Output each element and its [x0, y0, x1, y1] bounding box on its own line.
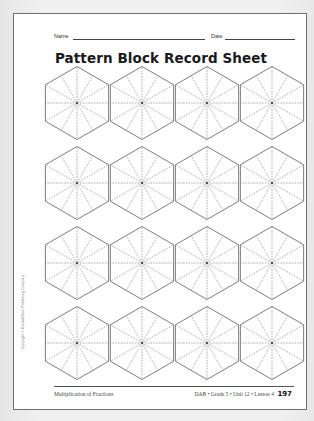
edge-guide-line [256, 183, 272, 210]
vertex-guide-line [45, 343, 77, 361]
edge-guide-line [272, 343, 288, 370]
edge-guide-line [272, 156, 288, 183]
hexagon-cell [110, 307, 173, 380]
vertex-guide-line [175, 85, 207, 103]
vertex-guide-line [207, 103, 239, 121]
edge-guide-line [61, 263, 77, 290]
vertex-guide-line [272, 85, 304, 103]
hexagon-cell [45, 227, 108, 300]
edge-guide-line [272, 236, 288, 263]
center-dot [76, 102, 78, 104]
vertex-guide-line [45, 263, 77, 281]
hexagon-cell [240, 307, 303, 380]
hexagon-grid [14, 14, 308, 411]
edge-guide-line [191, 343, 207, 370]
edge-guide-line [126, 236, 142, 263]
edge-guide-line [126, 343, 142, 370]
hexagon-cell [240, 67, 303, 140]
edge-guide-line [191, 156, 207, 183]
center-dot [271, 182, 273, 184]
vertex-guide-line [207, 245, 239, 263]
vertex-guide-line [142, 343, 174, 361]
edge-guide-line [77, 183, 93, 210]
edge-guide-line [126, 103, 142, 130]
edge-guide-line [207, 263, 223, 290]
edge-guide-line [142, 316, 158, 343]
vertex-guide-line [175, 343, 207, 361]
vertex-guide-line [175, 103, 207, 121]
vertex-guide-line [142, 263, 174, 281]
vertex-guide-line [272, 245, 304, 263]
vertex-guide-line [45, 245, 77, 263]
vertex-guide-line [45, 85, 77, 103]
vertex-guide-line [110, 245, 142, 263]
vertex-guide-line [175, 183, 207, 201]
edge-guide-line [61, 316, 77, 343]
center-dot [141, 182, 143, 184]
edge-guide-line [126, 316, 142, 343]
vertex-guide-line [142, 165, 174, 183]
edge-guide-line [61, 76, 77, 103]
edge-guide-line [77, 263, 93, 290]
edge-guide-line [191, 263, 207, 290]
vertex-guide-line [207, 325, 239, 343]
vertex-guide-line [77, 325, 109, 343]
vertex-guide-line [207, 343, 239, 361]
edge-guide-line [142, 236, 158, 263]
vertex-guide-line [142, 325, 174, 343]
vertex-guide-line [272, 325, 304, 343]
vertex-guide-line [240, 85, 272, 103]
edge-guide-line [207, 103, 223, 130]
vertex-guide-line [240, 103, 272, 121]
vertex-guide-line [45, 325, 77, 343]
copyright-note: Copyright © Kendall/Hunt Publishing Comp… [21, 267, 25, 357]
worksheet-page: Name Date Pattern Block Record Sheet Cop… [13, 13, 307, 410]
edge-guide-line [142, 76, 158, 103]
edge-guide-line [61, 103, 77, 130]
vertex-guide-line [272, 263, 304, 281]
vertex-guide-line [77, 165, 109, 183]
footer-lesson-label: DAB • Grade 5 • Unit 12 • Lesson 4 [194, 391, 274, 397]
edge-guide-line [207, 156, 223, 183]
vertex-guide-line [240, 183, 272, 201]
vertex-guide-line [110, 343, 142, 361]
vertex-guide-line [240, 325, 272, 343]
edge-guide-line [142, 156, 158, 183]
vertex-guide-line [207, 183, 239, 201]
edge-guide-line [272, 183, 288, 210]
vertex-guide-line [142, 85, 174, 103]
vertex-guide-line [45, 183, 77, 201]
vertex-guide-line [110, 103, 142, 121]
center-dot [76, 182, 78, 184]
vertex-guide-line [272, 183, 304, 201]
edge-guide-line [77, 103, 93, 130]
center-dot [206, 342, 208, 344]
vertex-guide-line [240, 165, 272, 183]
vertex-guide-line [77, 263, 109, 281]
edge-guide-line [126, 156, 142, 183]
center-dot [271, 262, 273, 264]
vertex-guide-line [110, 183, 142, 201]
footer-unit-title: Multiplication of Fractions [54, 391, 113, 397]
edge-guide-line [207, 183, 223, 210]
edge-guide-line [191, 236, 207, 263]
center-dot [271, 342, 273, 344]
edge-guide-line [272, 263, 288, 290]
hexagon-cell [175, 67, 238, 140]
edge-guide-line [61, 156, 77, 183]
edge-guide-line [77, 343, 93, 370]
vertex-guide-line [77, 103, 109, 121]
vertex-guide-line [77, 245, 109, 263]
vertex-guide-line [207, 263, 239, 281]
edge-guide-line [256, 236, 272, 263]
edge-guide-line [207, 343, 223, 370]
center-dot [206, 102, 208, 104]
edge-guide-line [272, 76, 288, 103]
edge-guide-line [61, 236, 77, 263]
vertex-guide-line [142, 245, 174, 263]
vertex-guide-line [272, 103, 304, 121]
center-dot [141, 342, 143, 344]
center-dot [206, 262, 208, 264]
vertex-guide-line [175, 325, 207, 343]
edge-guide-line [77, 156, 93, 183]
